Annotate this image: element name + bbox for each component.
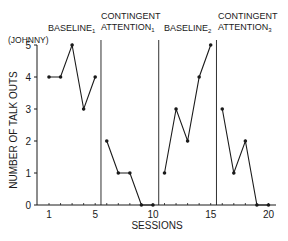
phase-label-contingent-1-line2: ATTENTION1 <box>101 22 155 33</box>
data-point <box>128 171 132 175</box>
x-axis-title: SESSIONS <box>131 220 182 231</box>
data-point <box>47 75 51 79</box>
data-point <box>105 139 109 143</box>
data-point <box>255 203 259 207</box>
phase-label-baseline-1: BASELINE1 <box>48 23 96 34</box>
y-tick-label: 0 <box>25 200 31 211</box>
x-tick-label: 5 <box>92 209 98 220</box>
data-point <box>186 139 190 143</box>
y-tick-label: 3 <box>25 104 31 115</box>
phase-line <box>49 45 95 109</box>
y-tick-label: 5 <box>25 40 31 51</box>
phase-line <box>165 45 211 173</box>
x-axis-ticks: 15101520 <box>46 203 274 220</box>
y-tick-label: 1 <box>25 168 31 179</box>
x-tick-label: 20 <box>263 209 275 220</box>
x-tick-label: 15 <box>205 209 217 220</box>
data-point <box>244 139 248 143</box>
data-point <box>197 75 201 79</box>
data-point <box>117 171 121 175</box>
y-axis-title: NUMBER OF TALK OUTS <box>8 71 19 189</box>
data-point <box>209 43 213 47</box>
data-point <box>174 107 178 111</box>
data-point <box>140 203 144 207</box>
phase-label-contingent-2-line2: ATTENTION3 <box>218 22 272 33</box>
y-axis-ticks: 012345 <box>25 40 37 211</box>
data-point <box>93 75 97 79</box>
data-point <box>267 203 271 207</box>
data-point <box>220 107 224 111</box>
axes <box>37 45 276 205</box>
phase-label-contingent-2-line1: CONTINGENT <box>218 11 278 21</box>
y-tick-label: 4 <box>25 72 31 83</box>
data-point <box>151 203 155 207</box>
data-point <box>70 43 74 47</box>
y-tick-label: 2 <box>25 136 31 147</box>
phase-line <box>222 109 268 205</box>
data-point <box>82 107 86 111</box>
phase-label-baseline-2: BASELINE2 <box>164 23 212 34</box>
phase-change-lines <box>101 40 217 205</box>
x-tick-label: 10 <box>147 209 159 220</box>
chart: BASELINE1 CONTINGENT ATTENTION1 BASELINE… <box>0 0 288 241</box>
data-point <box>163 171 167 175</box>
data-point <box>232 171 236 175</box>
x-tick-label: 1 <box>46 209 52 220</box>
phase-label-contingent-1-line1: CONTINGENT <box>101 11 161 21</box>
data-point <box>59 75 63 79</box>
